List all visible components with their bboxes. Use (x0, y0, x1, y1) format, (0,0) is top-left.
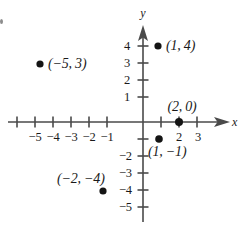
y-tick-label-neg5: −5 (119, 201, 132, 214)
x-tick-label-neg5: −5 (29, 131, 42, 144)
y-tick-label-1: 1 (124, 91, 130, 104)
x-axis-letter: x (232, 116, 237, 128)
x-tick-label-neg2: −2 (83, 131, 96, 144)
x-tick-label-neg1: −1 (101, 131, 114, 144)
y-axis (138, 33, 149, 222)
point-dot-2-0 (175, 118, 183, 126)
x-axis (8, 117, 222, 128)
y-tick-label-neg4: −4 (119, 184, 132, 197)
point-dot-1-4 (154, 42, 161, 49)
y-tick-label-2: 2 (124, 74, 130, 87)
point-label-1-4: (1, 4) (166, 39, 195, 53)
y-axis-letter: y (140, 7, 145, 19)
y-tick-label-3: 3 (124, 57, 130, 70)
x-tick-label-neg3: −3 (65, 131, 78, 144)
point-label-2-0: (2, 0) (167, 100, 196, 114)
point-label-neg5-3: (−5, 3) (48, 57, 86, 71)
y-tick-label-neg2: −2 (119, 150, 132, 163)
x-tick-label-2: 2 (176, 131, 182, 144)
point-dot-neg2-neg4 (99, 187, 106, 194)
x-tick-label-neg4: −4 (47, 131, 60, 144)
y-tick-label-4: 4 (124, 40, 130, 53)
point-label-1-neg1: (1, −1) (148, 145, 186, 159)
point-dot-1-neg1 (155, 135, 163, 143)
coordinate-plane-figure: y x −5 −4 −3 −2 −1 2 3 4 3 2 1 −2 −3 −4 … (0, 0, 243, 229)
point-label-neg2-neg4: (−2, −4) (57, 172, 105, 186)
x-tick-label-3: 3 (195, 131, 201, 144)
y-tick-label-neg3: −3 (119, 167, 132, 180)
point-dot-neg5-3 (36, 60, 43, 67)
scan-artifact-speck (0, 19, 3, 24)
